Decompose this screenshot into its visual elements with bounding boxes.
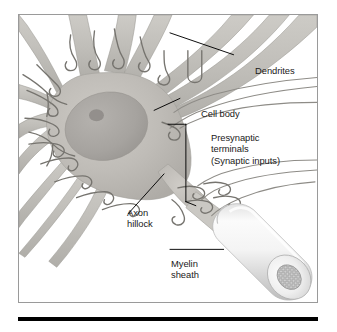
label-cell-body: Cell body bbox=[201, 108, 240, 119]
label-myelin-line-2: sheath bbox=[171, 269, 199, 280]
figure-frame: Dendrites Cell body Presynapticterminals… bbox=[18, 14, 318, 303]
label-axon-hillock-line-1: Axon bbox=[127, 207, 148, 218]
label-axon-hillock: Axonhillock bbox=[127, 207, 153, 230]
label-myelin-line-1: Myelin bbox=[171, 258, 198, 269]
figure-root: Dendrites Cell body Presynapticterminals… bbox=[0, 0, 337, 332]
label-presynaptic-terminals: Presynapticterminals(Synaptic inputs) bbox=[211, 132, 280, 166]
label-myelin-sheath: Myelinsheath bbox=[171, 258, 199, 281]
label-axon-hillock-line-2: hillock bbox=[127, 218, 153, 229]
label-presynaptic-line-1: Presynaptic bbox=[211, 132, 259, 143]
label-presynaptic-line-2: terminals bbox=[211, 143, 249, 154]
label-dendrites: Dendrites bbox=[255, 65, 295, 76]
label-presynaptic-line-3: (Synaptic inputs) bbox=[211, 155, 280, 166]
figure-bottom-rule bbox=[18, 317, 318, 321]
nucleolus bbox=[89, 109, 104, 121]
